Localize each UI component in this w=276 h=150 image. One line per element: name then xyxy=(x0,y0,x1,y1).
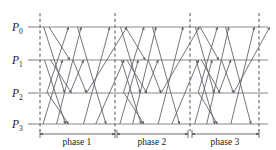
message-carryover-1-a xyxy=(96,60,124,124)
message-p1-to-p2-p2-10 xyxy=(148,60,161,93)
process-label-p3: P3 xyxy=(11,118,23,133)
message-p3-to-p0-p2-8 xyxy=(158,27,183,124)
message-p2-to-p1-p1-11 xyxy=(70,60,84,93)
message-p1-to-p2-p3-10 xyxy=(221,60,233,93)
process-labels: P0P1P2P3 xyxy=(11,21,36,133)
message-p3-to-p1-p3-7 xyxy=(195,60,212,124)
process-label-p2: P2 xyxy=(11,87,23,102)
message-p3-to-p1-p1-7 xyxy=(43,60,63,124)
message-p3-to-p1-p2-7 xyxy=(120,60,138,124)
message-p0-to-p3-p3-9 xyxy=(226,27,251,124)
process-phase-diagram: P0P1P2P3 phase 1phase 2phase 3 xyxy=(0,0,276,150)
message-p1-to-p2-p1-10 xyxy=(73,60,87,93)
phase-label-phase-2: phase 2 xyxy=(138,137,167,147)
phase-label-phase-3: phase 3 xyxy=(211,137,240,147)
phase-label-phase-1: phase 1 xyxy=(63,137,92,147)
process-label-p0: P0 xyxy=(11,21,23,36)
message-carryover-2-a xyxy=(172,60,199,124)
phase-labels: phase 1phase 2phase 3 xyxy=(63,137,240,147)
message-p3-to-p0-p3-8 xyxy=(231,27,254,124)
message-arrows xyxy=(43,27,270,124)
message-p0-to-p3-p2-9 xyxy=(153,27,180,124)
message-p3-to-p0-p1-8 xyxy=(84,27,110,124)
process-label-p1: P1 xyxy=(11,54,23,69)
diagram-canvas: P0P1P2P3 phase 1phase 2phase 3 xyxy=(0,0,276,150)
